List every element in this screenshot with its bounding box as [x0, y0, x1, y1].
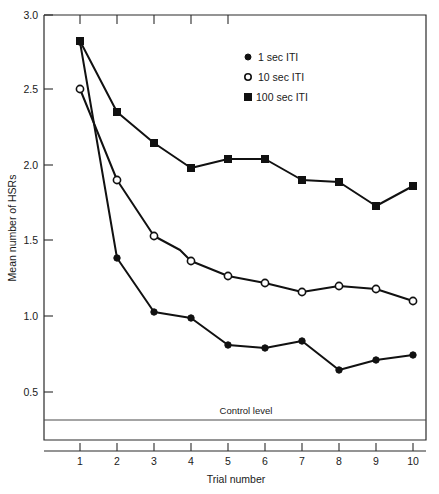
point-10-t2	[113, 176, 120, 183]
point-100-t3	[151, 140, 158, 147]
series-1-sec-iti	[77, 39, 416, 373]
x-tick-label-3: 3	[151, 455, 157, 467]
point-1-t8	[336, 367, 342, 373]
y-tick-label-2-5: 2.5	[23, 83, 38, 95]
series-100-sec-iti	[77, 38, 417, 210]
control-level-annotation: Control level	[44, 405, 426, 420]
point-10-t9	[372, 285, 379, 292]
legend-marker-filled-circle-icon	[245, 54, 251, 60]
plot-frame	[44, 15, 426, 440]
legend-label-10-sec: 10 sec ITI	[258, 71, 304, 83]
point-100-t10	[410, 183, 417, 190]
legend-label-1-sec: 1 sec ITI	[258, 51, 298, 63]
point-10-t1	[76, 85, 83, 92]
x-tick-label-8: 8	[336, 455, 342, 467]
point-10-t6	[261, 279, 268, 286]
legend-label-100-sec: 100 sec ITI	[256, 91, 308, 103]
line-chart-svg: 3.0 2.5 2.0 1.5 1.0 0.5 Control level	[0, 0, 439, 494]
point-100-t6	[262, 156, 269, 163]
point-1-t6	[262, 345, 268, 351]
y-tick-label-1-0: 1.0	[23, 310, 38, 322]
point-1-t9	[373, 357, 379, 363]
x-tick-label-4: 4	[188, 455, 194, 467]
chart-legend: 1 sec ITI 10 sec ITI 100 sec ITI	[245, 51, 308, 103]
series-100-sec-iti-line	[80, 41, 413, 206]
point-100-t5	[225, 156, 232, 163]
x-tick-label-5: 5	[225, 455, 231, 467]
x-tick-label-1: 1	[77, 455, 83, 467]
point-1-t2	[114, 255, 120, 261]
legend-marker-filled-square-icon	[245, 94, 252, 101]
x-tick-label-10: 10	[407, 455, 419, 467]
control-level-label: Control level	[220, 405, 273, 416]
x-axis-title: Trial number	[207, 473, 266, 485]
point-1-t10	[410, 352, 416, 358]
x-tick-label-6: 6	[262, 455, 268, 467]
point-10-t3	[150, 232, 157, 239]
point-100-t9	[373, 203, 380, 210]
point-100-t4	[188, 165, 195, 172]
point-100-t7	[299, 177, 306, 184]
y-tick-label-0-5: 0.5	[23, 386, 38, 398]
point-100-t2	[114, 109, 121, 116]
y-tick-label-2-0: 2.0	[23, 159, 38, 171]
x-axis: 1 2 3 4 5 6 7 8 9 10 Trial number	[44, 443, 426, 485]
point-100-t8	[336, 179, 343, 186]
series-10-sec-iti-line	[80, 89, 413, 301]
top-axis-ticks	[80, 15, 228, 24]
point-1-t1	[77, 39, 83, 45]
y-axis-tick-labels: 3.0 2.5 2.0 1.5 1.0 0.5	[23, 9, 38, 398]
plot-border	[44, 15, 426, 440]
point-10-t5	[224, 272, 231, 279]
series-1-sec-iti-line	[80, 42, 413, 370]
point-10-t7	[298, 288, 305, 295]
y-tick-label-1-5: 1.5	[23, 234, 38, 246]
point-10-t8	[335, 282, 342, 289]
point-1-t4	[188, 315, 194, 321]
x-tick-label-7: 7	[299, 455, 305, 467]
legend-marker-open-circle-icon	[245, 74, 251, 80]
x-tick-label-9: 9	[373, 455, 379, 467]
x-tick-label-2: 2	[114, 455, 120, 467]
y-tick-label-3-0: 3.0	[23, 9, 38, 21]
y-axis-title: Mean number of HSRs	[6, 175, 18, 282]
point-1-t5	[225, 342, 231, 348]
point-1-t7	[299, 338, 305, 344]
point-10-t10	[409, 297, 416, 304]
point-1-t3	[151, 309, 157, 315]
chart-figure: 3.0 2.5 2.0 1.5 1.0 0.5 Control level	[0, 0, 439, 494]
point-10-t4	[187, 257, 194, 264]
y-axis-ticks	[44, 15, 53, 392]
